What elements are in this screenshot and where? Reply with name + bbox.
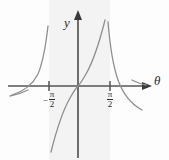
y-axis-label: y xyxy=(64,16,70,29)
fraction-neg-half-pi: π 2 xyxy=(49,90,56,110)
tick-label-neg-half-pi: − π 2 xyxy=(32,90,66,110)
tan-branch-right-tail xyxy=(132,80,146,85)
tangent-function-figure: y θ − π 2 π 2 xyxy=(0,0,169,160)
tick-label-pos-half-pi: π 2 xyxy=(98,90,122,110)
tan-branch-left-partial xyxy=(12,26,48,95)
fraction-denominator: 2 xyxy=(49,99,56,110)
fraction-numerator: π xyxy=(49,90,56,99)
theta-axis-label: θ xyxy=(154,74,160,87)
fraction-numerator: π xyxy=(107,90,114,99)
fraction-denominator: 2 xyxy=(107,99,114,110)
graph-canvas xyxy=(0,0,169,160)
shaded-band xyxy=(49,0,110,160)
fraction-pos-half-pi: π 2 xyxy=(107,90,114,110)
theta-axis-arrowhead xyxy=(142,82,152,90)
